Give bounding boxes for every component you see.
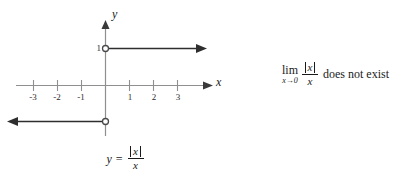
x-tick-label-1: 1 [121, 92, 139, 102]
limit-statement: lim x→0 x x does not exist [282, 62, 389, 87]
y-tick-label-1: 1 [87, 43, 101, 53]
branch-negative [7, 117, 109, 126]
limit-conclusion: does not exist [323, 67, 389, 82]
limit-operator: lim x→0 [282, 64, 298, 85]
x-axis-label: x [216, 76, 221, 88]
x-tick-label-neg2: -2 [48, 92, 66, 102]
limit-subscript: x→0 [282, 77, 298, 85]
limit-sub-arrow: → [286, 76, 294, 85]
limit-denominator: x [306, 75, 315, 87]
limit-sub-target: 0 [294, 76, 298, 85]
equation-fraction: x x [128, 146, 144, 171]
limit-numerator: x [303, 62, 318, 74]
x-tick-label-3: 3 [169, 92, 187, 102]
limit-fraction: x x [302, 62, 318, 87]
branch-positive [103, 44, 208, 53]
y-axis-label: y [112, 8, 117, 20]
x-axis [16, 82, 213, 90]
equation-caption: y = x x [70, 146, 180, 171]
equation-numerator: x [128, 146, 143, 158]
equation-equals-sign: = [116, 153, 123, 165]
absolute-value-x: x [130, 146, 141, 157]
x-tick-label-neg1: -1 [72, 92, 90, 102]
x-tick-label-2: 2 [145, 92, 163, 102]
x-tick-label-neg3: -3 [24, 92, 42, 102]
figure-absolute-value-over-x: -3 -2 -1 1 2 3 1 x y y = x x lim x→0 x x… [0, 0, 401, 187]
limit-absolute-value-x: x [305, 62, 316, 73]
equation-denominator: x [131, 159, 140, 171]
limit-word: lim [282, 64, 298, 76]
equation-lhs: y [106, 153, 111, 165]
